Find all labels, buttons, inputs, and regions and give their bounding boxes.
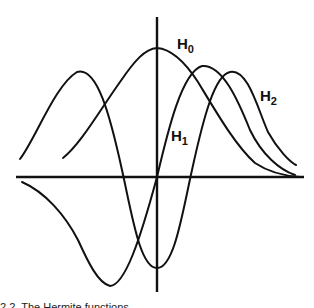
h2-label: H2 xyxy=(260,87,277,107)
h0-label: H0 xyxy=(177,35,194,55)
hermite-function-diagram: H0 H1 H2 xyxy=(0,0,314,308)
h0-curve xyxy=(63,48,300,177)
figure-caption: 2.2. The Hermite functions... xyxy=(0,300,314,308)
h1-label: H1 xyxy=(171,127,188,147)
